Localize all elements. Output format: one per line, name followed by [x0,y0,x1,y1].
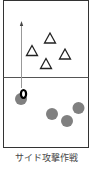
field-border [4,1,89,148]
diagram-caption: サイド攻撃作戦 [0,151,92,164]
player-circle [46,108,58,120]
ball-icon [21,90,26,98]
player-circle [61,115,73,127]
player-circle [73,102,85,114]
tactics-diagram [0,0,92,150]
